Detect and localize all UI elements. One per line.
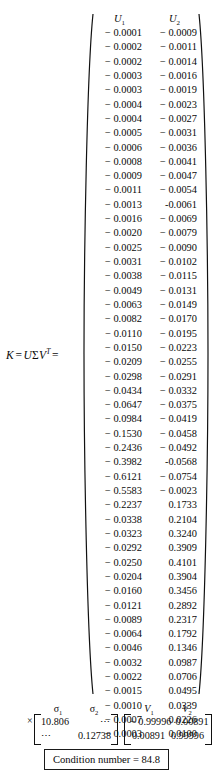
matrix-row: − 0.03380.2104 xyxy=(92,513,202,527)
matrix-row: − 0.0020− 0.0079 xyxy=(92,226,202,240)
matrix-row: − 0.0984− 0.0419 xyxy=(92,412,202,426)
matrix-row: − 0.0063− 0.0149 xyxy=(92,298,202,312)
matrix-cell-u1: − 0.6121 xyxy=(92,470,147,484)
u-matrix-rows: − 0.0001− 0.0009− 0.0002− 0.0011− 0.0002… xyxy=(92,26,202,742)
matrix-cell-u2: − 0.0458 xyxy=(147,427,202,441)
matrix-cell-u1: − 0.0015 xyxy=(92,684,147,698)
equals-sign-2: = xyxy=(51,349,61,361)
matrix-row: − 0.0011− 0.0054 xyxy=(92,183,202,197)
matrix-cell-u2: − 0.0149 xyxy=(147,298,202,312)
matrix-cell-u2: -0.0061 xyxy=(147,198,202,212)
matrix-cell-u1: − 0.0298 xyxy=(92,370,147,384)
matrix-cell-u2: − 0.0023 xyxy=(147,98,202,112)
svd-equation-figure: K=UΣVT= U1 U2 − 0.0001− 0.0009− 0.0002− … xyxy=(0,0,222,700)
matrix-cell-u1: − 0.0323 xyxy=(92,527,147,541)
matrix-row: − 0.22370.1733 xyxy=(92,498,202,512)
matrix-row: − 0.0434− 0.0332 xyxy=(92,384,202,398)
matrix-row: − 0.02040.3904 xyxy=(92,570,202,584)
matrix-row: − 0.0005− 0.0031 xyxy=(92,126,202,140)
matrix-cell-u1: − 0.0032 xyxy=(92,656,147,670)
matrix-row: 10.806⋯ xyxy=(40,715,112,729)
matrix-row: − 0.0016− 0.0069 xyxy=(92,212,202,226)
matrix-cell-u2: − 0.0011 xyxy=(147,40,202,54)
matrix-cell-u1: − 0.0016 xyxy=(92,212,147,226)
matrix-row: − 0.0031− 0.0102 xyxy=(92,255,202,269)
transpose-superscript: T xyxy=(46,347,50,356)
right-bracket-icon xyxy=(111,714,118,745)
matrix-cell-u2: 0.0495 xyxy=(147,684,202,698)
matrix-row: − 0.00890.2317 xyxy=(92,613,202,627)
matrix-row: − 0.999960.00891 xyxy=(130,715,206,729)
matrix-cell-u2: 0.1346 xyxy=(147,641,202,655)
matrix-cell: ⋯ xyxy=(76,715,112,729)
matrix-cell-u1: − 0.0022 xyxy=(92,670,147,684)
matrix-cell-u1: − 0.0110 xyxy=(92,327,147,341)
v-matrix-rows: − 0.999960.008910.008910.99996 xyxy=(130,715,206,743)
matrix-cell-u2: 0.2104 xyxy=(147,513,202,527)
matrix-cell-u2: 0.4101 xyxy=(147,556,202,570)
matrix-cell-u2: − 0.0754 xyxy=(147,470,202,484)
matrix-cell-u1: − 0.3982 xyxy=(92,455,147,469)
condition-number-text: Condition number = 84.8 xyxy=(53,754,160,765)
matrix-cell-u2: − 0.0041 xyxy=(147,155,202,169)
matrix-cell-u1: − 0.0150 xyxy=(92,341,147,355)
matrix-cell-u2: − 0.0027 xyxy=(147,112,202,126)
matrix-cell-u2: − 0.0255 xyxy=(147,355,202,369)
sigma-symbol: Σ xyxy=(32,349,39,361)
matrix-cell-u1: − 0.0250 xyxy=(92,556,147,570)
matrix-cell-u1: − 0.0038 xyxy=(92,269,147,283)
matrix-cell-u1: − 0.0046 xyxy=(92,641,147,655)
matrix-cell-u2: − 0.0047 xyxy=(147,169,202,183)
matrix-row: − 0.0150− 0.0223 xyxy=(92,341,202,355)
matrix-row: − 0.00640.1792 xyxy=(92,627,202,641)
matrix-cell: 0.99996 xyxy=(169,729,206,743)
matrix-cell-u1: − 0.0011 xyxy=(92,183,147,197)
matrix-cell-u1: − 0.0647 xyxy=(92,398,147,412)
matrix-row: − 0.0002− 0.0014 xyxy=(92,55,202,69)
matrix-cell-u2: − 0.0492 xyxy=(147,441,202,455)
matrix-row: − 0.02920.3909 xyxy=(92,541,202,555)
matrix-row: − 0.0003− 0.0016 xyxy=(92,69,202,83)
matrix-row: − 0.01600.3456 xyxy=(92,584,202,598)
matrix-cell-u1: − 0.0003 xyxy=(92,83,147,97)
matrix-cell: 10.806 xyxy=(40,715,76,729)
matrix-row: − 0.0038− 0.0115 xyxy=(92,269,202,283)
matrix-cell-u1: − 0.0434 xyxy=(92,384,147,398)
matrix-row: − 0.0008− 0.0041 xyxy=(92,155,202,169)
matrix-cell-u1: − 0.0004 xyxy=(92,98,147,112)
matrix-cell-u1: − 0.0003 xyxy=(92,69,147,83)
equation-label: K=UΣVT= xyxy=(6,347,60,361)
matrix-cell-u1: − 0.0004 xyxy=(92,112,147,126)
matrix-row: − 0.0013-0.0061 xyxy=(92,198,202,212)
matrix-cell-u2: − 0.0131 xyxy=(147,284,202,298)
matrix-cell-u2: 0.0706 xyxy=(147,670,202,684)
matrix-cell-u1: − 0.0005 xyxy=(92,126,147,140)
u-matrix: U1 U2 − 0.0001− 0.0009− 0.0002− 0.0011− … xyxy=(83,12,207,696)
matrix-row: − 0.6121− 0.0754 xyxy=(92,470,202,484)
matrix-row: − 0.0003− 0.0019 xyxy=(92,83,202,97)
matrix-row: − 0.00220.0706 xyxy=(92,670,202,684)
matrix-cell-u2: − 0.0291 xyxy=(147,370,202,384)
matrix-cell-u2: 0.2892 xyxy=(147,599,202,613)
sigma-matrix: σ1 σ2 10.806⋯⋯0.12738 xyxy=(34,703,118,743)
matrix-row: − 0.0209− 0.0255 xyxy=(92,355,202,369)
matrix-cell-u2: − 0.0195 xyxy=(147,327,202,341)
matrix-cell-u1: − 0.0020 xyxy=(92,226,147,240)
matrix-cell-u2: − 0.0079 xyxy=(147,226,202,240)
matrix-cell-u1: − 0.0013 xyxy=(92,198,147,212)
matrix-cell-u1: − 0.2436 xyxy=(92,441,147,455)
matrix-cell-u1: − 0.0204 xyxy=(92,570,147,584)
matrix-cell-u1: − 0.0082 xyxy=(92,312,147,326)
matrix-row: − 0.0025− 0.0090 xyxy=(92,241,202,255)
matrix-cell-u1: − 0.0049 xyxy=(92,284,147,298)
matrix-cell-u1: − 0.0002 xyxy=(92,55,147,69)
matrix-cell-u1: − 0.0008 xyxy=(92,155,147,169)
matrix-row: − 0.0004− 0.0027 xyxy=(92,112,202,126)
matrix-cell-u2: 0.2317 xyxy=(147,613,202,627)
matrix-cell-u2: 0.3909 xyxy=(147,541,202,555)
matrix-cell-u2: 0.3904 xyxy=(147,570,202,584)
matrix-cell-u2: − 0.0102 xyxy=(147,255,202,269)
matrix-row: − 0.0298− 0.0291 xyxy=(92,370,202,384)
column-header-v2: V2 xyxy=(168,703,206,715)
column-header-sigma1: σ1 xyxy=(40,703,76,715)
